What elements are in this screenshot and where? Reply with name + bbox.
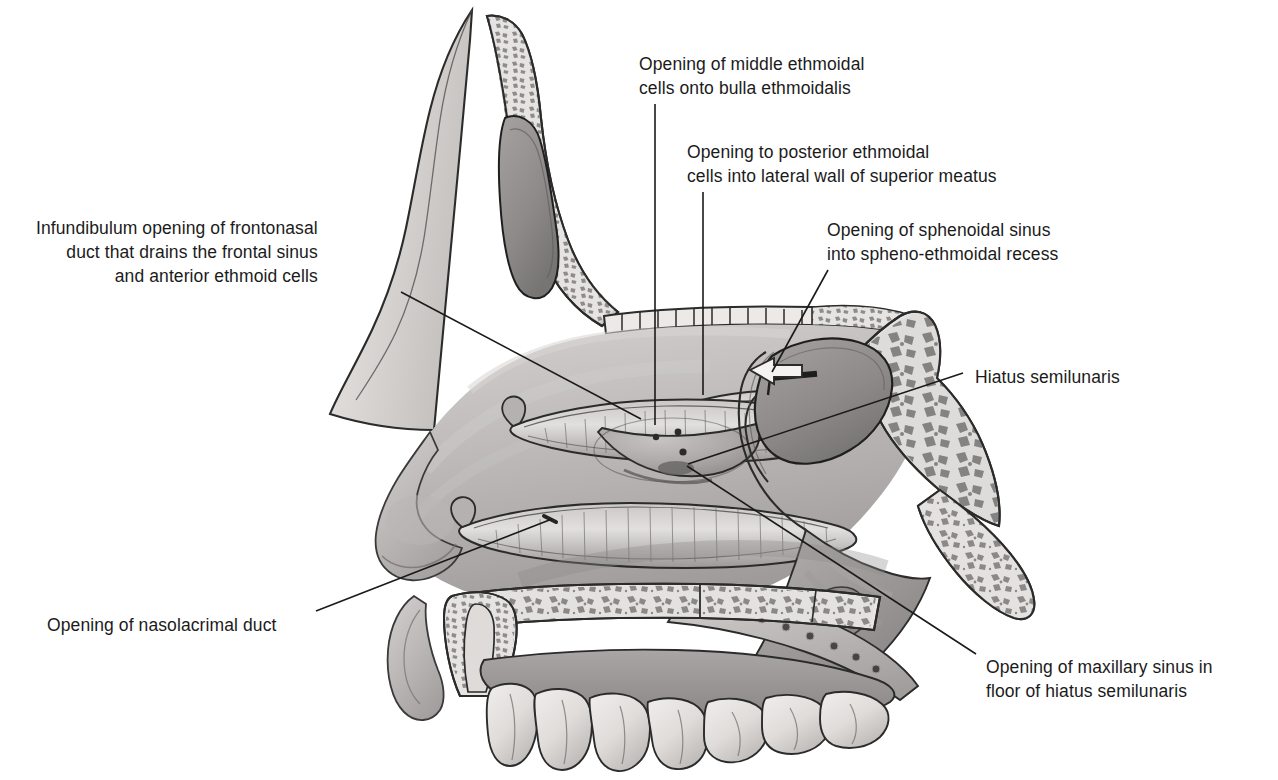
face-profile: [330, 10, 472, 430]
frontal-bone: [470, 0, 640, 340]
label-maxillary-sinus: Opening of maxillary sinus in floor of h…: [986, 655, 1213, 703]
label-infundibulum: Infundibulum opening of frontonasal duct…: [36, 216, 318, 288]
label-middle-ethmoidal: Opening of middle ethmoidal cells onto b…: [639, 52, 864, 100]
label-hiatus-semilunaris: Hiatus semilunaris: [975, 365, 1120, 389]
label-nasolacrimal-duct: Opening of nasolacrimal duct: [47, 613, 276, 637]
label-posterior-ethmoidal: Opening to posterior ethmoidal cells int…: [687, 140, 997, 188]
label-sphenoidal-sinus: Opening of sphenoidal sinus into spheno-…: [827, 218, 1058, 266]
anatomy-figure: Opening of middle ethmoidal cells onto b…: [0, 0, 1278, 780]
